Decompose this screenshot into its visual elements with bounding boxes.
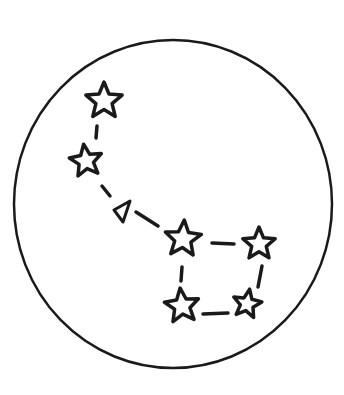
star-icon — [86, 82, 122, 116]
connector-dash — [212, 243, 234, 244]
stars-group — [69, 82, 275, 322]
connector-dash — [203, 313, 228, 314]
triangle-marker-icon — [114, 201, 130, 222]
connector-dash — [136, 212, 158, 226]
star-icon — [243, 227, 275, 258]
constellation-illustration — [0, 0, 344, 395]
connector-dash — [181, 267, 182, 281]
connector-dash — [96, 126, 97, 138]
star-icon — [69, 144, 101, 176]
star-icon — [165, 220, 201, 255]
star-icon — [234, 289, 262, 317]
connector-dash — [258, 266, 262, 287]
star-icon — [164, 288, 198, 322]
connector-dash — [102, 186, 110, 196]
